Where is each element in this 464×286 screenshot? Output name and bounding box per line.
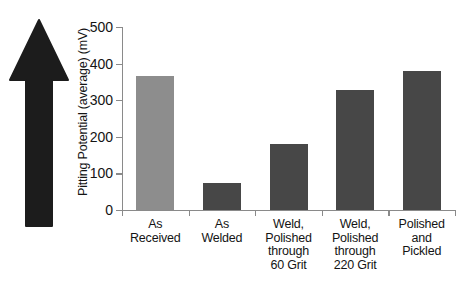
- category-label-line: Polished: [388, 218, 455, 232]
- category-label-line: Welded: [189, 232, 256, 246]
- y-tick-mark: [116, 27, 122, 28]
- category-label-line: through: [322, 245, 389, 259]
- x-tick-mark: [455, 210, 456, 216]
- x-tick-mark: [189, 210, 190, 216]
- category-label: Weld,Polishedthrough60 Grit: [255, 218, 322, 272]
- category-label-line: through: [255, 245, 322, 259]
- bar: [403, 71, 441, 210]
- bar: [203, 183, 241, 210]
- y-axis-line: [122, 27, 123, 211]
- category-label-line: Pickled: [388, 245, 455, 259]
- category-label: Weld,Polishedthrough220 Grit: [322, 218, 389, 272]
- y-tick-mark: [116, 173, 122, 174]
- category-label-line: Polished: [322, 232, 389, 246]
- y-axis-title: Pitting Potential (average) (mV): [74, 12, 92, 212]
- category-label-line: As: [189, 218, 256, 232]
- y-tick-mark: [116, 100, 122, 101]
- category-label-line: Received: [122, 232, 189, 246]
- y-tick-mark: [116, 64, 122, 65]
- category-label-line: Weld,: [255, 218, 322, 232]
- plot-area: 0100200300400500: [122, 27, 455, 211]
- category-label: PolishedandPickled: [388, 218, 455, 259]
- y-tick-label: 200: [90, 129, 113, 145]
- bar: [270, 144, 308, 210]
- y-axis-title-text: Pitting Potential (average) (mV): [76, 28, 90, 196]
- x-axis-category-labels: AsReceivedAsWeldedWeld,Polishedthrough60…: [122, 218, 455, 284]
- y-tick-label: 300: [90, 92, 113, 108]
- category-label-line: 220 Grit: [322, 259, 389, 273]
- x-tick-mark: [322, 210, 323, 216]
- category-label-line: Weld,: [322, 218, 389, 232]
- y-tick-label: 100: [90, 165, 113, 181]
- category-label-line: and: [388, 232, 455, 246]
- y-tick-label: 500: [90, 19, 113, 35]
- category-label: AsReceived: [122, 218, 189, 245]
- bar: [336, 90, 374, 210]
- x-tick-mark: [122, 210, 123, 216]
- x-tick-mark: [388, 210, 389, 216]
- x-axis-line: [122, 210, 455, 211]
- category-label-line: As: [122, 218, 189, 232]
- category-label: AsWelded: [189, 218, 256, 245]
- category-label-line: Polished: [255, 232, 322, 246]
- up-arrow-icon: [8, 18, 70, 230]
- x-tick-mark: [255, 210, 256, 216]
- chart-figure: Pitting Potential (average) (mV) 0100200…: [0, 0, 464, 286]
- y-tick-label: 400: [90, 56, 113, 72]
- y-tick-mark: [116, 137, 122, 138]
- y-tick-label: 0: [105, 202, 113, 218]
- bar: [136, 76, 174, 210]
- category-label-line: 60 Grit: [255, 259, 322, 273]
